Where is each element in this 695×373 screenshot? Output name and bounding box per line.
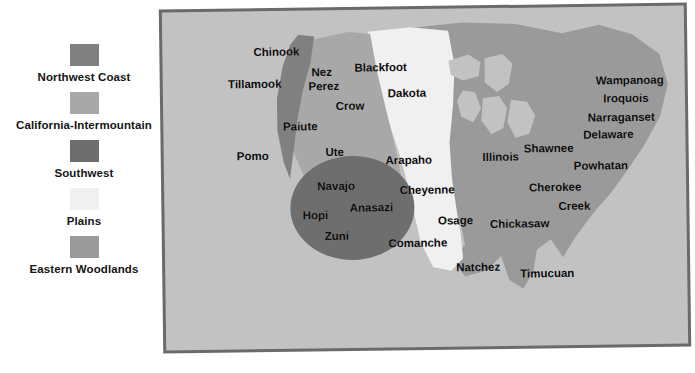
tribe-label-ute: Ute: [325, 146, 344, 159]
legend: Northwest Coast California-Intermountain…: [0, 44, 168, 284]
tribe-label-illinois: Illinois: [482, 151, 519, 164]
legend-swatch-plains: [70, 188, 99, 210]
tribe-label-arapaho: Arapaho: [385, 154, 432, 167]
tribe-label-anasazi: Anasazi: [350, 201, 394, 214]
legend-label-eastern-woodlands: Eastern Woodlands: [30, 263, 139, 276]
tribe-label-hopi: Hopi: [303, 209, 329, 222]
legend-label-plains: Plains: [67, 215, 101, 228]
tribe-label-paiute: Paiute: [283, 120, 318, 133]
tribe-label-shawnee: Shawnee: [524, 142, 574, 155]
tribe-label-crow: Crow: [336, 100, 365, 113]
tribe-label-navajo: Navajo: [317, 180, 355, 193]
tribe-label-nez: Nez: [311, 66, 332, 79]
tribe-label-timucuan: Timucuan: [520, 267, 574, 280]
tribe-label-chickasaw: Chickasaw: [490, 217, 550, 230]
legend-label-southwest: Southwest: [54, 167, 113, 180]
map-regions-svg: [162, 6, 688, 351]
legend-swatch-southwest: [70, 140, 99, 162]
tribe-label-narraganset: Narraganset: [588, 111, 655, 124]
legend-item-plains: Plains: [0, 188, 168, 228]
map-canvas: Chinook Tillamook Nez Perez Blackfoot Da…: [162, 6, 688, 351]
tribe-label-osage: Osage: [438, 214, 473, 227]
tribe-label-cherokee: Cherokee: [529, 181, 582, 194]
tribe-label-tillamook: Tillamook: [228, 78, 282, 91]
tribe-label-natchez: Natchez: [456, 261, 500, 274]
tribe-label-cheyenne: Cheyenne: [400, 183, 455, 196]
tribe-label-dakota: Dakota: [388, 87, 427, 100]
tribe-label-iroquois: Iroquois: [603, 92, 649, 105]
tribe-label-creek: Creek: [558, 200, 590, 213]
legend-item-southwest: Southwest: [0, 140, 168, 180]
tribe-label-pomo: Pomo: [237, 150, 269, 163]
tribe-label-comanche: Comanche: [388, 236, 447, 249]
tribe-label-blackfoot: Blackfoot: [354, 61, 407, 74]
tribe-label-wampanoag: Wampanoag: [596, 74, 664, 87]
map-border-frame: Chinook Tillamook Nez Perez Blackfoot Da…: [159, 3, 691, 354]
tribe-label-perez: Perez: [308, 80, 339, 93]
legend-label-northwest-coast: Northwest Coast: [38, 71, 131, 84]
tribe-label-delaware: Delaware: [583, 128, 634, 141]
tribe-label-powhatan: Powhatan: [574, 159, 628, 172]
legend-label-california-intermountain: California-Intermountain: [16, 119, 152, 132]
legend-swatch-california-intermountain: [70, 92, 99, 114]
tribe-label-zuni: Zuni: [325, 230, 349, 243]
legend-item-california-intermountain: California-Intermountain: [0, 92, 168, 132]
legend-item-eastern-woodlands: Eastern Woodlands: [0, 236, 168, 276]
map-figure: Northwest Coast California-Intermountain…: [0, 0, 695, 373]
legend-item-northwest-coast: Northwest Coast: [0, 44, 168, 84]
legend-swatch-eastern-woodlands: [70, 236, 99, 258]
tribe-label-chinook: Chinook: [253, 45, 299, 58]
legend-swatch-northwest-coast: [70, 44, 99, 66]
